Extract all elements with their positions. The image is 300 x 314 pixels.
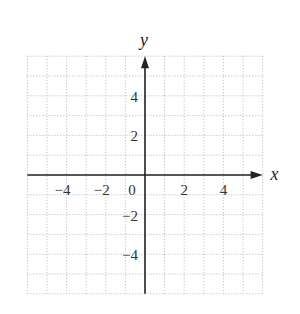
y-tick-label: −4 (122, 247, 138, 263)
x-axis-arrow-icon (251, 171, 263, 179)
y-axis-label: y (138, 30, 148, 50)
y-tick-label: −2 (122, 208, 138, 224)
y-tick-label: 2 (131, 128, 139, 144)
x-tick-label: 2 (180, 182, 188, 198)
y-tick-labels: 42−2−4 (122, 89, 138, 263)
x-tick-label: 0 (128, 182, 136, 198)
x-axis-label: x (270, 164, 279, 184)
x-tick-label: −2 (94, 182, 110, 198)
coordinate-plane: −4−2024 42−2−4 x y (0, 0, 300, 314)
x-tick-label: −4 (55, 182, 71, 198)
x-tick-label: 4 (220, 182, 228, 198)
x-tick-labels: −4−2024 (55, 182, 228, 198)
y-axis-arrow-icon (141, 56, 149, 68)
y-tick-label: 4 (131, 89, 139, 105)
axes (27, 56, 262, 294)
